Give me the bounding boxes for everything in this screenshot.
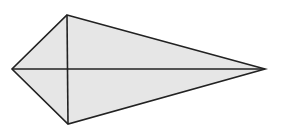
kite-diagram <box>0 0 282 130</box>
vertical-diagonal <box>67 15 68 124</box>
kite-figure <box>0 0 282 130</box>
